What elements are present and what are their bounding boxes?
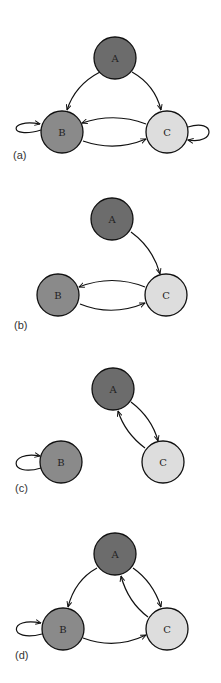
edge-b-to-c — [83, 635, 146, 643]
edge-c-to-b — [82, 118, 146, 124]
panel-b: A B C (b) — [0, 170, 221, 340]
node-a-label: A — [110, 549, 119, 560]
edge-a-to-c — [132, 72, 161, 110]
node-b-label: B — [54, 290, 61, 301]
panel-label-d: (d) — [15, 649, 28, 661]
self-loop-b — [16, 455, 41, 470]
node-b-label: B — [57, 457, 64, 468]
edge-c-to-a — [121, 576, 148, 617]
node-c-label: C — [163, 624, 171, 635]
panel-label-b: (b) — [14, 319, 27, 331]
edge-a-to-b — [68, 568, 97, 607]
graph-d: A B C — [0, 510, 221, 683]
panel-a: A B C (a) — [0, 0, 221, 170]
node-a-label: A — [110, 53, 119, 64]
panel-c: A B C (c) — [0, 340, 221, 510]
self-loop-c — [188, 125, 209, 140]
graph-b: A B C — [0, 170, 221, 340]
panel-label-c: (c) — [15, 482, 28, 494]
edge-a-to-b — [67, 72, 100, 110]
self-loop-b — [16, 622, 42, 636]
self-loop-b — [16, 123, 41, 133]
edge-a-to-c — [133, 568, 161, 607]
node-b-label: B — [58, 127, 65, 138]
node-c-label: C — [163, 127, 171, 138]
panel-label-a: (a) — [13, 149, 26, 161]
graph-a: A B C — [0, 0, 221, 170]
node-c-label: C — [162, 290, 170, 301]
panel-d: A B C (d) — [0, 510, 221, 680]
node-b-label: B — [59, 624, 66, 635]
edge-b-to-c — [83, 139, 146, 146]
graph-c: A B C — [0, 340, 221, 510]
edge-c-to-b — [79, 281, 145, 288]
edge-a-to-c — [131, 402, 158, 441]
node-a-label: A — [107, 214, 116, 225]
edge-a-to-c — [131, 232, 160, 274]
node-c-label: C — [159, 457, 167, 468]
edge-b-to-c — [80, 303, 145, 310]
edge-c-to-a — [118, 411, 145, 448]
node-a-label: A — [108, 384, 117, 395]
